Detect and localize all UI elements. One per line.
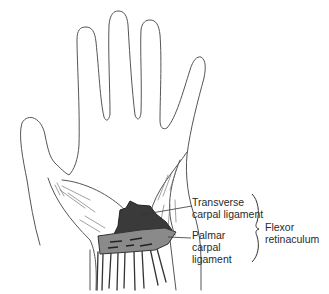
label-flexor-retinaculum: Flexor retinaculum [265,221,319,245]
palmar-carpal-ligament [98,228,176,254]
label-palmar-carpal-ligament: Palmar carpal ligament [192,229,232,265]
label-transverse-carpal-ligament: Transverse carpal ligament [192,196,263,220]
hand-illustration [0,0,329,294]
